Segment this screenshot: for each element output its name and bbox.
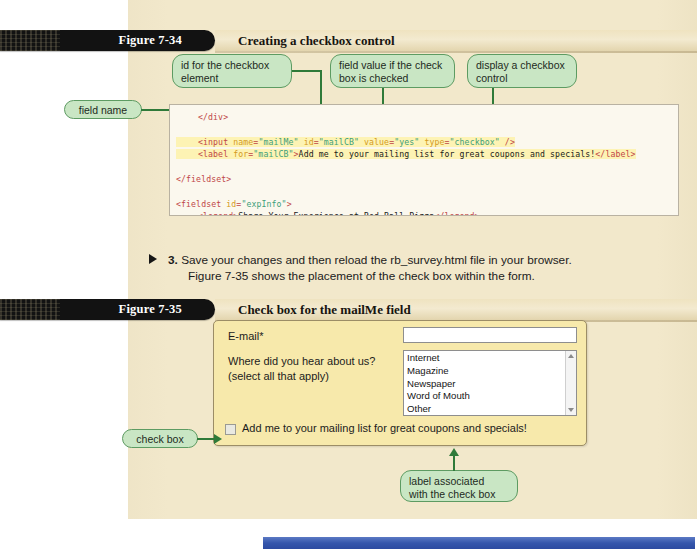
listbox-scrollbar[interactable] — [565, 351, 576, 415]
step-3-instructions: 3. Save your changes and then reload the… — [168, 252, 648, 284]
bottom-blue-bar — [263, 537, 695, 549]
callout-text: check box — [136, 433, 183, 445]
connector-line — [292, 70, 322, 72]
callout-id-for-checkbox: id for the checkbox element — [172, 54, 292, 88]
callout-text: display a checkbox control — [476, 59, 565, 84]
hear-label-line-2: (select all that apply) — [228, 370, 329, 382]
step-bullet-icon — [149, 254, 157, 264]
list-item[interactable]: Magazine — [407, 365, 576, 378]
hear-about-us-listbox[interactable]: Internet Magazine Newspaper Word of Mout… — [403, 350, 577, 416]
code-line-3: <label for="mailCB">Add me to your maili… — [198, 149, 636, 159]
listbox-options: Internet Magazine Newspaper Word of Mout… — [404, 351, 576, 416]
step-line-1: Save your changes and then reload the rb… — [181, 253, 572, 267]
list-item[interactable]: Internet — [407, 352, 576, 365]
email-input[interactable] — [403, 327, 577, 343]
code-line-6: <legend>Share Your Experience at Red Bal… — [198, 211, 480, 216]
figure-number-7-35: Figure 7-35 — [0, 299, 200, 320]
code-line-1: </div> — [198, 112, 228, 122]
callout-field-value: field value if the check box is checked — [330, 54, 455, 88]
callout-line-2: with the check box — [409, 488, 495, 500]
callout-display-checkbox: display a checkbox control — [467, 54, 577, 88]
callout-text: id for the checkbox element — [181, 59, 269, 84]
step-number: 3. — [168, 253, 178, 267]
code-line-2: <input name="mailMe" id="mailCB" value="… — [198, 137, 515, 147]
list-item[interactable]: Newspaper — [407, 378, 576, 391]
code-listing-block: </div> <input name="mailMe" id="mailCB" … — [169, 104, 679, 216]
figure-underline — [215, 51, 697, 53]
callout-text: field name — [79, 104, 127, 116]
callout-label-associated: label associated with the check box — [400, 470, 518, 502]
email-field-label: E-mail* — [228, 330, 263, 342]
code-line-4: </fieldset> — [176, 174, 231, 184]
figure-caption-bar-7-34: Creating a checkbox control Figure 7-34 — [0, 30, 697, 51]
connector-line — [197, 438, 214, 440]
figure-caption-bar-7-35: Check box for the mailMe field Figure 7-… — [0, 299, 697, 320]
step-line-2: Figure 7-35 shows the placement of the c… — [168, 268, 648, 284]
browser-form-screenshot: E-mail* Where did you hear about us? (se… — [213, 320, 587, 446]
scroll-up-arrow-icon[interactable] — [568, 354, 574, 358]
list-item[interactable]: Word of Mouth — [407, 390, 576, 403]
figure-title-7-35: Check box for the mailMe field — [238, 299, 411, 320]
hear-label-line-1: Where did you hear about us? — [228, 355, 375, 367]
figure-title-7-34: Creating a checkbox control — [238, 30, 395, 51]
mailme-checkbox[interactable] — [225, 424, 236, 435]
code-line-5: <fieldset id="expInfo"> — [176, 199, 292, 209]
connector-line — [453, 455, 455, 471]
hear-about-us-label: Where did you hear about us? (select all… — [228, 354, 375, 384]
callout-text: field value if the check box is checked — [339, 59, 442, 84]
callout-line-1: label associated — [409, 475, 484, 487]
figure-title-background: Check box for the mailMe field — [215, 299, 697, 320]
callout-check-box: check box — [122, 429, 198, 448]
code-text: </div> <input name="mailMe" id="mailCB" … — [176, 111, 678, 216]
mailme-checkbox-label: Add me to your mailing list for great co… — [242, 422, 527, 434]
list-item[interactable]: Other — [407, 403, 576, 416]
figure-title-background: Creating a checkbox control — [215, 30, 697, 51]
figure-number-7-34: Figure 7-34 — [0, 30, 200, 51]
callout-field-name: field name — [64, 100, 142, 119]
connector-arrow-right — [214, 434, 222, 444]
connector-arrow-up — [449, 448, 459, 456]
scroll-down-arrow-icon[interactable] — [568, 408, 574, 412]
